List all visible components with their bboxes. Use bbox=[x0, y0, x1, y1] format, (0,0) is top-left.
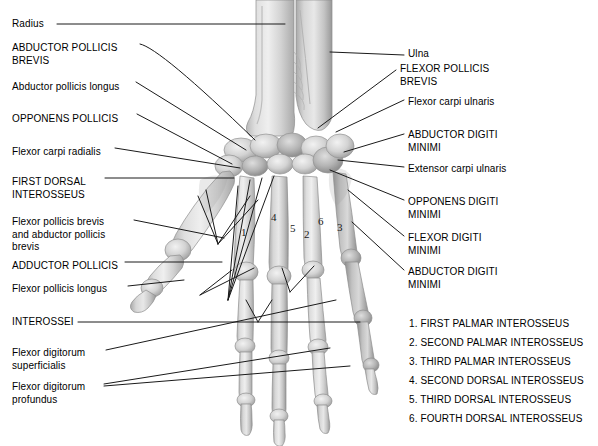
legend-item-1: 1. FIRST PALMAR INTEROSSEUS bbox=[409, 318, 569, 331]
label-adductor-pollicis: ADDUCTOR POLLICIS bbox=[12, 260, 118, 273]
legend-item-2: 2. SECOND PALMAR INTEROSSEUS bbox=[409, 337, 583, 350]
legend-text: SECOND PALMAR INTEROSSEUS bbox=[420, 337, 583, 348]
callout-2: 2 bbox=[304, 228, 310, 240]
label-radius: Radius bbox=[12, 18, 44, 31]
legend-text: FOURTH DORSAL INTEROSSEUS bbox=[420, 413, 582, 424]
legend-item-6: 6. FOURTH DORSAL INTEROSSEUS bbox=[409, 413, 582, 426]
label-flexor-carpi-radialis: Flexor carpi radialis bbox=[12, 146, 101, 159]
legend-number: 5. bbox=[409, 394, 418, 405]
leader-flexor-digitorum-profundus-2 bbox=[104, 366, 350, 386]
legend-number: 4. bbox=[409, 375, 418, 386]
label-abductor-digiti-minimi-upper: ABDUCTOR DIGITI MINIMI bbox=[408, 129, 498, 154]
legend-number: 1. bbox=[409, 318, 418, 329]
label-first-dorsal-interosseus: FIRST DORSAL INTEROSSEUS bbox=[12, 176, 86, 201]
leader-thumb-fan-1 bbox=[198, 196, 218, 244]
legend-item-5: 5. THIRD DORSAL INTEROSSEUS bbox=[409, 394, 571, 407]
legend-item-3: 3. THIRD PALMAR INTEROSSEUS bbox=[409, 356, 571, 369]
legend-item-4: 4. SECOND DORSAL INTEROSSEUS bbox=[409, 375, 584, 388]
label-flexor-carpi-ulnaris: Flexor carpi ulnaris bbox=[408, 96, 494, 109]
leader-abductor-digiti-minimi-upper bbox=[344, 134, 404, 152]
label-flexor-digiti-minimi: FLEXOR DIGITI MINIMI bbox=[408, 232, 482, 257]
leader-interossei-branch-f bbox=[258, 300, 272, 322]
callout-4: 4 bbox=[271, 211, 277, 223]
legend-number: 3. bbox=[409, 356, 418, 367]
label-flexor-pollicis-brevis-and-abductor-pollicis-brevis: Flexor pollicis brevis and abductor poll… bbox=[12, 216, 105, 254]
leader-flexor-digitorum-profundus-1 bbox=[104, 348, 330, 384]
legend-text: FIRST PALMAR INTEROSSEUS bbox=[420, 318, 569, 329]
leader-number-fan-2 bbox=[228, 180, 250, 300]
label-extensor-carpi-ulnaris: Extensor carpi ulnaris bbox=[408, 163, 506, 176]
label-abductor-pollicis-longus: Abductor pollicis longus bbox=[12, 81, 119, 94]
leader-ulna bbox=[330, 52, 404, 55]
legend-number: 6. bbox=[409, 413, 418, 424]
callout-6: 6 bbox=[318, 215, 324, 227]
leader-flexor-pollicis-longus bbox=[128, 280, 184, 286]
leader-extensor-carpi-ulnaris bbox=[338, 160, 404, 167]
leader-flexor-digitorum-superficialis bbox=[106, 300, 336, 350]
leader-flexor-pollicis-brevis bbox=[318, 70, 396, 128]
legend-text: THIRD DORSAL INTEROSSEUS bbox=[420, 394, 571, 405]
hand-anatomy-figure: RadiusABDUCTOR POLLICIS BREVISAbductor p… bbox=[0, 0, 598, 446]
label-opponens-digiti-minimi: OPPONENS DIGITI MINIMI bbox=[408, 196, 498, 221]
leader-abductor-pollicis-brevis bbox=[140, 44, 255, 140]
label-flexor-pollicis-longus: Flexor pollicis longus bbox=[12, 283, 107, 296]
leader-number-fan-4 bbox=[228, 176, 274, 300]
legend-text: THIRD PALMAR INTEROSSEUS bbox=[420, 356, 571, 367]
label-abductor-pollicis-brevis: ABDUCTOR POLLICIS BREVIS bbox=[12, 42, 117, 67]
leader-interossei-branch-a bbox=[200, 270, 232, 295]
leader-flexor-carpi-ulnaris bbox=[336, 100, 404, 132]
leader-flexor-pollicis-brevis-group bbox=[134, 220, 224, 238]
leader-interossei-branch-d bbox=[290, 266, 314, 292]
label-flexor-digitorum-superficialis: Flexor digitorum superficialis bbox=[12, 347, 85, 372]
label-abductor-digiti-minimi-lower: ABDUCTOR DIGITI MINIMI bbox=[408, 266, 498, 291]
leader-opponens-pollicis bbox=[137, 114, 232, 164]
legend-text: SECOND DORSAL INTEROSSEUS bbox=[420, 375, 583, 386]
label-interossei: INTEROSSEI bbox=[12, 316, 74, 329]
label-flexor-pollicis-brevis: FLEXOR POLLICIS BREVIS bbox=[400, 63, 489, 88]
legend-number: 2. bbox=[409, 337, 418, 348]
callout-3: 3 bbox=[337, 221, 343, 233]
callout-1: 1 bbox=[241, 226, 247, 238]
label-ulna: Ulna bbox=[408, 48, 429, 61]
callout-5: 5 bbox=[290, 222, 296, 234]
leader-interossei-branch-c bbox=[282, 268, 290, 292]
leader-interossei-branch-b bbox=[200, 268, 254, 295]
leader-thumb-fan-4 bbox=[218, 200, 258, 244]
leader-opponens-digiti-minimi bbox=[330, 170, 404, 200]
label-flexor-digitorum-profundus: Flexor digitorum profundus bbox=[12, 381, 85, 406]
label-opponens-pollicis: OPPONENS POLLICIS bbox=[12, 113, 118, 126]
